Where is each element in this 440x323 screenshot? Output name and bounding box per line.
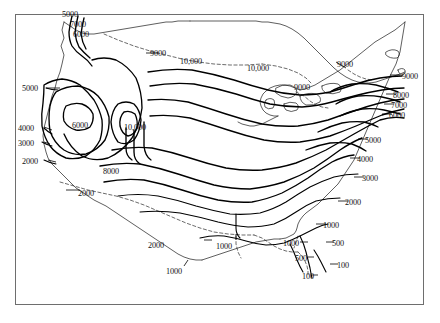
contour-label: 10,000	[180, 58, 202, 66]
contour-label: 5000	[22, 85, 38, 93]
contour-label: 8000	[393, 92, 409, 100]
contour-label: 100	[337, 262, 349, 270]
contour-label: 5000	[62, 11, 78, 19]
contour-label: 1000	[283, 240, 299, 248]
contour-label: 8000	[103, 168, 119, 176]
contour-label: 6000	[73, 31, 89, 39]
contour-label: 3000	[18, 140, 34, 148]
contour-label: 7000	[70, 21, 86, 29]
contour-label: 100	[302, 273, 314, 281]
figure-canvas: 500070006000900010,00010,000900090009000…	[0, 0, 440, 323]
us-outline	[43, 21, 405, 260]
contour-label: 6000	[389, 112, 405, 120]
contour-label: 2000	[78, 190, 94, 198]
contour-label: 7000	[391, 102, 407, 110]
contour-label: 5000	[365, 137, 381, 145]
state-boundaries	[60, 34, 372, 276]
contour-label: 4000	[18, 125, 34, 133]
contour-map-graphic	[0, 0, 440, 323]
contour-label: 1000	[323, 222, 339, 230]
contour-label: 2000	[345, 199, 361, 207]
contour-label: 10,000	[124, 124, 146, 132]
contour-label: 1000	[216, 243, 232, 251]
contour-label: 3000	[362, 175, 378, 183]
contour-label: 4000	[357, 156, 373, 164]
contour-label: 2000	[148, 242, 164, 250]
contour-label: 9000	[294, 84, 310, 92]
contour-label: 6000	[72, 122, 88, 130]
contour-label: 2000	[22, 158, 38, 166]
contour-label: 1000	[166, 268, 182, 276]
contour-label: 500	[295, 255, 307, 263]
contour-label: 9000	[402, 73, 418, 81]
contour-label: 500	[332, 240, 344, 248]
contour-label: 9000	[150, 50, 166, 58]
contour-label: 9000	[337, 61, 353, 69]
contour-label: 10,000	[247, 65, 269, 73]
contour-lines	[42, 16, 404, 278]
